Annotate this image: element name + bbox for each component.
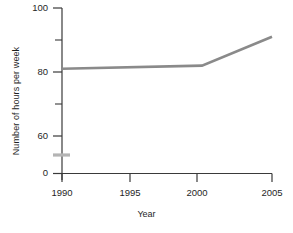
y-axis-title: Number of hours per week [11, 31, 21, 171]
x-tick-label-1990: 1990 [42, 187, 82, 198]
x-axis-title: Year [0, 209, 293, 219]
x-tick-label-2000: 2000 [177, 187, 217, 198]
y-tick-label-100: 100 [14, 2, 48, 13]
x-tick-label-1995: 1995 [110, 187, 150, 198]
y-tick-label-0: 0 [14, 167, 48, 178]
data-series-line [62, 37, 272, 69]
x-tick-label-2005: 2005 [252, 187, 292, 198]
line-chart: Number of hours per week Year 100 80 60 … [0, 0, 293, 233]
y-tick-label-80: 80 [14, 66, 48, 77]
chart-plot-area [0, 0, 293, 233]
y-tick-label-60: 60 [14, 130, 48, 141]
